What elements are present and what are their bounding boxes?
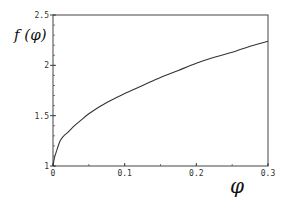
y-tick-label: 2.5 — [35, 11, 50, 20]
plot-frame — [53, 15, 268, 166]
x-tick-label: 0.1 — [117, 169, 132, 178]
y-tick-label: 2 — [44, 61, 49, 70]
data-series — [53, 41, 268, 166]
x-tick-label: 0 — [51, 169, 56, 178]
line-chart: 11.522.5 00.10.20.3 f (φ) φ — [0, 0, 291, 204]
x-axis-title: φ — [230, 174, 244, 198]
series-line — [53, 41, 268, 166]
x-tick-label: 0.3 — [261, 169, 276, 178]
x-tick-label: 0.2 — [189, 169, 204, 178]
y-tick-label: 1.5 — [35, 112, 50, 121]
y-tick-label: 1 — [44, 162, 49, 171]
y-axis-title: f (φ) — [13, 26, 47, 44]
